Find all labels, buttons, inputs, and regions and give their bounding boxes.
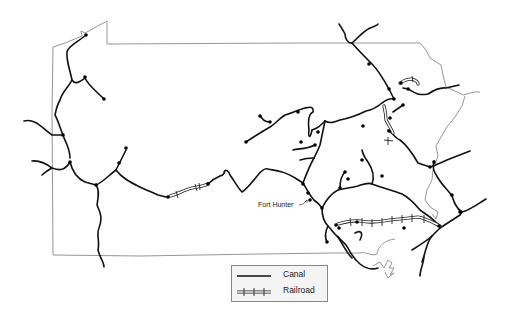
state-border xyxy=(52,21,480,256)
canal-line-icon xyxy=(237,271,271,281)
railroad-line-icon xyxy=(237,287,271,297)
canal-lines xyxy=(24,24,486,276)
fort-hunter-text: Fort Hunter xyxy=(258,201,294,208)
railroad-lines xyxy=(170,76,440,227)
legend-item-railroad: Railroad xyxy=(232,284,327,300)
legend-item-canal: Canal xyxy=(232,268,327,284)
legend-label-canal: Canal xyxy=(283,269,305,279)
map-legend: Canal Railroad xyxy=(231,265,328,302)
legend-label-railroad: Railroad xyxy=(283,285,315,295)
town-markers xyxy=(61,33,462,244)
fort-hunter-label: Fort Hunter xyxy=(258,200,307,208)
